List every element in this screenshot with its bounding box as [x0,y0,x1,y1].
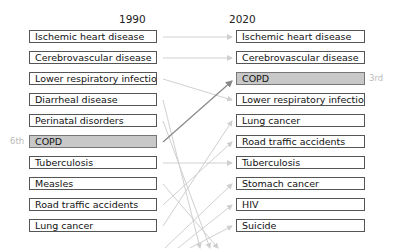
left-item-box: Cerebrovascular disease [29,51,157,64]
right-item-box: HIV [236,198,365,211]
right-item-box: Tuberculosis [236,156,365,169]
right-item-box: Cerebrovascular disease [236,51,365,64]
arrow-suicide [190,226,232,248]
right-item-box: Stomach cancer [236,177,365,190]
right-item-box: Lung cancer [236,114,365,127]
left-item-box: Lower respiratory infection [29,72,157,85]
arrow-diarrheal [163,100,200,248]
left-item-box: Perinatal disorders [29,114,157,127]
left-item-box: COPD [29,135,157,148]
arrow-perinatal [163,121,210,248]
left-item-box: Ischemic heart disease [29,30,157,43]
left-rank-label: 6th [10,136,24,146]
left-item-box: Road traffic accidents [29,198,157,211]
arrow-copd [163,81,232,142]
right-item-box: Road traffic accidents [236,135,365,148]
right-item-box: COPD [236,72,365,85]
right-item-box: Lower respiratory infection [236,93,365,106]
left-item-box: Diarrheal disease [29,93,157,106]
right-item-box: Suicide [236,219,365,232]
arrow-lung [163,121,232,226]
right-rank-label: 3rd [369,73,383,83]
right-item-box: Ischemic heart disease [236,30,365,43]
left-item-box: Lung cancer [29,219,157,232]
left-item-box: Measles [29,177,157,190]
left-item-box: Tuberculosis [29,156,157,169]
